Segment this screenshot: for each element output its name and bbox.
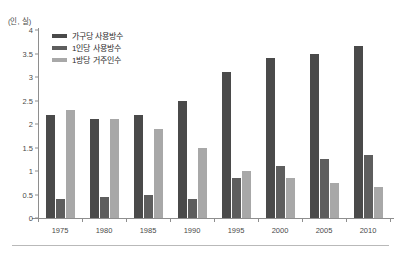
x-axis-tick-mark xyxy=(302,218,303,222)
x-axis-tick-label: 1995 xyxy=(228,226,245,235)
bar xyxy=(222,72,231,218)
bar-group xyxy=(126,30,170,218)
x-axis-tick-mark xyxy=(170,218,171,222)
x-axis-tick-mark xyxy=(38,218,39,222)
x-axis-tick-label: 2010 xyxy=(360,226,377,235)
y-axis-unit-label: (인, 실) xyxy=(8,15,31,26)
legend-label: 1방당 거주인수 xyxy=(72,54,121,65)
bar xyxy=(134,115,143,218)
x-axis-tick-label: 1985 xyxy=(140,226,157,235)
bar xyxy=(46,115,55,218)
chart-legend: 가구당 사용방수1인당 사용방수1방당 거주인수 xyxy=(52,30,123,66)
x-axis-tick-label: 1980 xyxy=(96,226,113,235)
legend-label: 1인당 사용방수 xyxy=(72,42,121,53)
bar xyxy=(144,195,153,219)
bar xyxy=(354,46,363,218)
bar xyxy=(154,129,163,218)
bar xyxy=(266,58,275,218)
x-axis-line xyxy=(32,218,394,219)
bar xyxy=(310,54,319,219)
x-axis-tick-label: 2000 xyxy=(272,226,289,235)
x-axis-tick-mark xyxy=(82,218,83,222)
bar xyxy=(320,159,329,218)
footer-divider xyxy=(12,245,389,246)
x-axis-tick-mark xyxy=(346,218,347,222)
x-axis-tick-label: 1975 xyxy=(52,226,69,235)
legend-swatch-icon xyxy=(52,34,67,38)
legend-swatch-icon xyxy=(52,58,67,62)
chart-figure: (인, 실) 00.511.522.533.54 가구당 사용방수1인당 사용방… xyxy=(0,0,401,258)
bar xyxy=(100,197,109,218)
bar xyxy=(364,155,373,218)
x-axis-tick-mark xyxy=(214,218,215,222)
legend-item: 1방당 거주인수 xyxy=(52,54,123,65)
x-axis-tick-mark xyxy=(390,218,391,222)
bar xyxy=(276,166,285,218)
x-axis-tick-mark xyxy=(258,218,259,222)
bar-group xyxy=(170,30,214,218)
bar xyxy=(232,178,241,218)
bar-group xyxy=(258,30,302,218)
cropped-header-text xyxy=(6,0,156,9)
legend-item: 1인당 사용방수 xyxy=(52,42,123,53)
bar-group xyxy=(302,30,346,218)
bar xyxy=(178,101,187,219)
x-axis-tick-mark xyxy=(126,218,127,222)
bar xyxy=(90,119,99,218)
bar xyxy=(242,171,251,218)
legend-item: 가구당 사용방수 xyxy=(52,30,123,41)
legend-swatch-icon xyxy=(52,46,67,50)
bar-group xyxy=(214,30,258,218)
bar-group xyxy=(346,30,390,218)
bar xyxy=(56,199,65,218)
bar xyxy=(330,183,339,218)
x-axis-tick-label: 1990 xyxy=(184,226,201,235)
bar xyxy=(198,148,207,219)
x-axis-tick-label: 2005 xyxy=(316,226,333,235)
bar xyxy=(66,110,75,218)
bar xyxy=(110,119,119,218)
bar xyxy=(188,199,197,218)
legend-label: 가구당 사용방수 xyxy=(72,30,123,41)
bar xyxy=(286,178,295,218)
bar xyxy=(374,187,383,218)
